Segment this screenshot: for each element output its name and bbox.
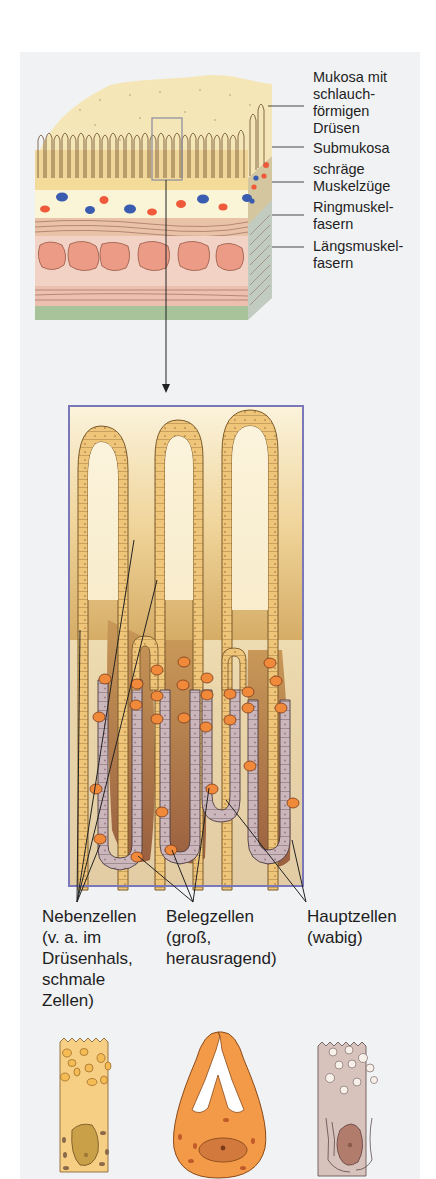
label-line: (groß, xyxy=(166,927,277,948)
label-mukosa: Mukosa mit schlauch- förmigen Drüsen xyxy=(313,69,387,137)
label-line: Ringmuskel- xyxy=(313,199,394,216)
label-nebenzellen: Nebenzellen (v. a. im Drüsenhals, schmal… xyxy=(42,906,137,1011)
label-laengsmuskelfasern: Längsmuskel- fasern xyxy=(313,238,403,272)
label-line: Muskelzüge xyxy=(313,178,390,195)
label-line: Belegzellen xyxy=(166,906,277,927)
label-line: Drüsenhals, xyxy=(42,948,137,969)
label-ringmuskelfasern: Ringmuskel- fasern xyxy=(313,199,394,233)
label-line: fasern xyxy=(313,216,394,233)
label-line: förmigen xyxy=(313,103,387,120)
hauptzelle-illustration xyxy=(318,1042,378,1176)
wall-label-leaders xyxy=(268,106,304,247)
label-line: Nebenzellen xyxy=(42,906,137,927)
label-line: Zellen) xyxy=(42,990,137,1011)
label-line: (v. a. im xyxy=(42,927,137,948)
label-line: Submukosa xyxy=(313,140,390,157)
label-line: Längsmuskel- xyxy=(313,238,403,255)
label-submukosa: Submukosa xyxy=(313,140,390,157)
label-line: schlauch- xyxy=(313,86,387,103)
label-line: herausragend) xyxy=(166,948,277,969)
label-hauptzellen: Hauptzellen (wabig) xyxy=(307,906,397,948)
label-line: Drüsen xyxy=(313,120,387,137)
label-line: fasern xyxy=(313,255,403,272)
belegzelle-illustration xyxy=(173,1032,265,1178)
label-line: (wabig) xyxy=(307,927,397,948)
label-belegzellen: Belegzellen (groß, herausragend) xyxy=(166,906,277,969)
wall-block xyxy=(35,75,272,320)
gland-detail xyxy=(69,406,303,890)
label-line: Mukosa mit xyxy=(313,69,387,86)
label-line: schräge xyxy=(313,161,390,178)
label-line: Hauptzellen xyxy=(307,906,397,927)
label-line: schmale xyxy=(42,969,137,990)
label-schraege-muskelzuege: schräge Muskelzüge xyxy=(313,161,390,195)
nebenzelle-illustration xyxy=(60,1038,111,1172)
